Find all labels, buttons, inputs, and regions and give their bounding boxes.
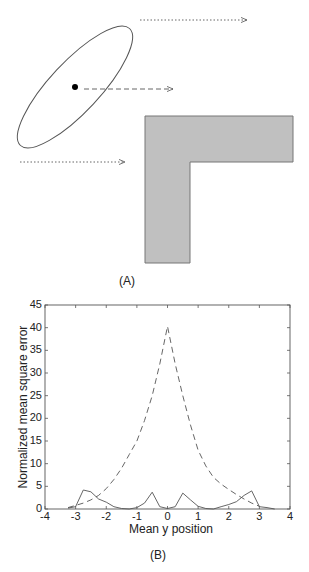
series-solid xyxy=(68,490,275,509)
data-series xyxy=(68,326,275,509)
x-tick-label: 4 xyxy=(280,510,300,522)
x-tick-label: -2 xyxy=(96,510,116,522)
panel-b-label: (B) xyxy=(150,548,166,562)
x-axis-label: Mean y position xyxy=(129,522,213,536)
y-tick-label: 45 xyxy=(20,298,42,310)
x-tick-label: 1 xyxy=(188,510,208,522)
series-dashed xyxy=(68,326,259,507)
axis-ticks xyxy=(45,305,290,509)
y-tick-label: 0 xyxy=(20,502,42,514)
plot-area-frame xyxy=(45,305,290,509)
panel-a-label: (A) xyxy=(119,274,135,288)
x-tick-label: 0 xyxy=(158,510,178,522)
center-dot xyxy=(72,84,78,90)
x-tick-label: -1 xyxy=(127,510,147,522)
l-shape xyxy=(145,116,293,263)
x-tick-label: 2 xyxy=(219,510,239,522)
panel-a-diagram xyxy=(0,0,309,290)
x-tick-label: -3 xyxy=(66,510,86,522)
x-tick-label: 3 xyxy=(249,510,269,522)
y-axis-label: Normalized mean square error xyxy=(16,322,30,492)
